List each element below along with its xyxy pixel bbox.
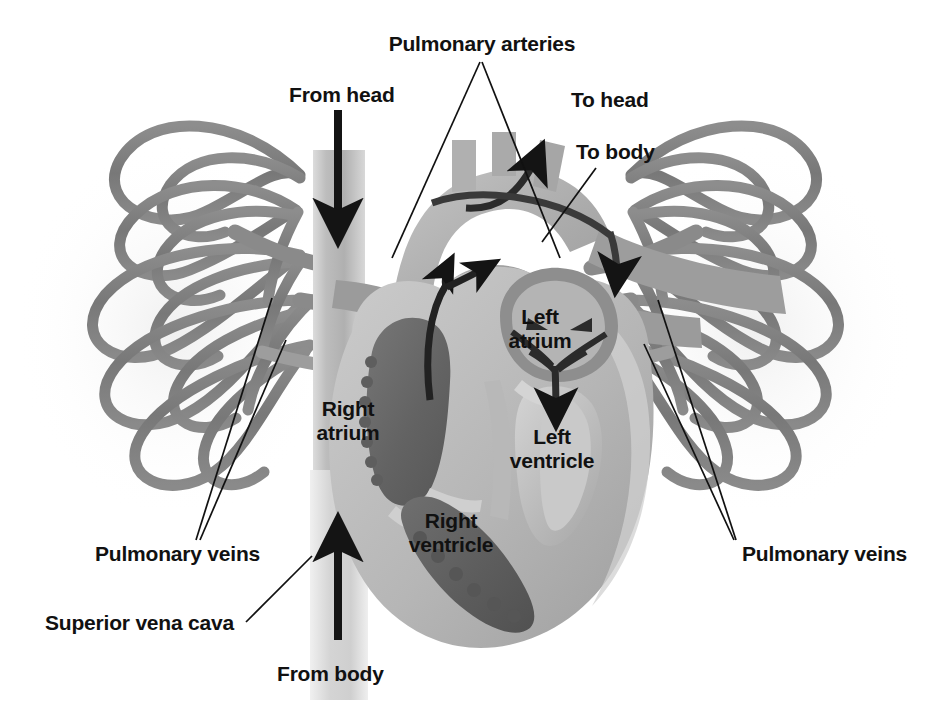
label-pulmonary-veins-left: Pulmonary veins: [95, 542, 260, 566]
label-right-ventricle-line1: Right: [396, 509, 506, 533]
label-right-atrium-line2: atrium: [300, 421, 396, 445]
label-left-atrium-line1: Left: [498, 305, 582, 329]
label-pulmonary-arteries: Pulmonary arteries: [380, 32, 584, 56]
la-to-lv-arrow: [555, 366, 556, 420]
label-from-body: From body: [277, 662, 384, 686]
label-left-ventricle-line1: Left: [503, 425, 601, 449]
label-from-head: From head: [289, 83, 395, 107]
leader-superior-vena-cava: [246, 556, 312, 622]
label-right-ventricle-line2: ventricle: [396, 533, 506, 557]
label-left-ventricle-line2: ventricle: [503, 449, 601, 473]
label-right-atrium-line1: Right: [300, 397, 396, 421]
label-to-head: To head: [571, 88, 649, 112]
aortic-branch-left: [452, 140, 476, 192]
label-superior-vena-cava: Superior vena cava: [45, 611, 234, 635]
heart-anatomy-illustration: [0, 0, 931, 709]
heart-diagram-page: Pulmonary arteries From head To head To …: [0, 0, 931, 709]
label-to-body: To body: [576, 140, 655, 164]
label-left-atrium-line2: atrium: [498, 329, 582, 353]
label-pulmonary-veins-right: Pulmonary veins: [742, 542, 907, 566]
